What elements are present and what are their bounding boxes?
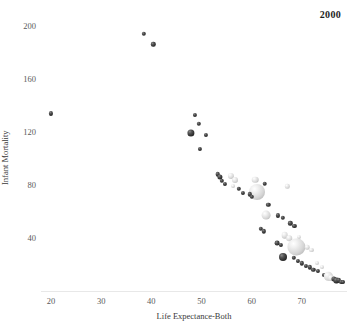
x-tick-label: 70 <box>298 296 307 306</box>
data-point-bubble <box>49 111 53 115</box>
data-point-bubble <box>197 147 201 151</box>
data-point-bubble <box>309 248 313 252</box>
data-point-bubble <box>232 177 238 183</box>
x-tick-label: 60 <box>247 296 256 306</box>
x-tick-label: 30 <box>97 296 106 306</box>
year-label: 2000 <box>320 9 341 20</box>
y-tick-label: 200 <box>18 21 36 31</box>
y-tick-label: 40 <box>18 233 36 243</box>
data-point-bubble <box>197 122 201 126</box>
x-tick-label: 40 <box>147 296 156 306</box>
data-point-bubble <box>204 133 208 137</box>
x-tick-label: 20 <box>47 296 56 306</box>
data-point-bubble <box>266 203 270 207</box>
data-point-bubble <box>279 253 287 261</box>
x-tick-label: 50 <box>197 296 206 306</box>
data-point-bubble <box>142 32 146 36</box>
data-point-bubble <box>315 261 319 265</box>
x-axis-line <box>41 291 347 292</box>
data-point-bubble <box>223 182 227 186</box>
data-point-bubble <box>279 243 283 247</box>
x-axis-title: Life Expectance-Both <box>157 311 232 321</box>
data-point-bubble <box>192 113 196 117</box>
data-point-bubble <box>252 176 259 183</box>
data-point-bubble <box>316 269 320 273</box>
data-point-bubble <box>151 42 155 46</box>
bubble-scatter-chart: 203040506070 4080120160200 2000 Life Exp… <box>0 0 349 331</box>
data-point-bubble <box>281 216 285 220</box>
data-point-bubble <box>231 184 235 188</box>
y-axis-title: Infant Mortality <box>0 130 10 185</box>
data-point-bubble <box>262 229 266 233</box>
data-point-bubble <box>288 239 305 256</box>
plot-area: 203040506070 4080120160200 <box>0 0 349 331</box>
data-point-bubble <box>262 211 271 220</box>
data-point-bubble <box>276 213 280 217</box>
y-tick-label: 80 <box>18 180 36 190</box>
y-tick-label: 120 <box>18 127 36 137</box>
data-point-bubble <box>187 130 194 137</box>
y-tick-label: 160 <box>18 74 36 84</box>
data-point-bubble <box>241 191 245 195</box>
data-point-bubble <box>341 280 345 284</box>
data-point-bubble <box>285 184 289 188</box>
data-point-bubble <box>292 224 296 228</box>
data-point-bubble <box>320 265 324 269</box>
